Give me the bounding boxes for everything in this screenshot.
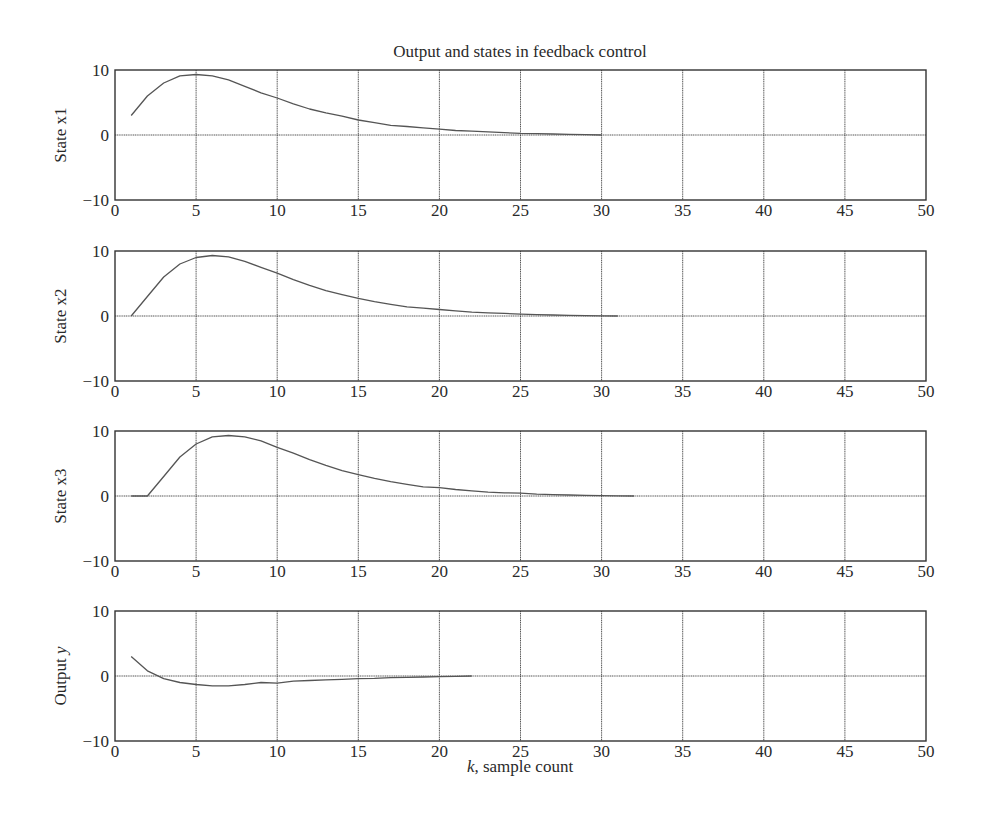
x-tick-label: 0	[111, 562, 120, 581]
series-line-x2	[131, 256, 618, 317]
x-tick-label: 10	[269, 742, 286, 761]
x-tick-label: 20	[431, 742, 448, 761]
x-tick-label: 40	[755, 201, 772, 220]
x-tick-label: 45	[836, 382, 853, 401]
x-tick-label: 5	[192, 201, 201, 220]
chart-title: Output and states in feedback control	[393, 42, 647, 61]
subplot-1: 05101520253035404550−10010State x1	[51, 61, 935, 220]
x-tick-label: 10	[269, 201, 286, 220]
series-line-x1	[131, 75, 601, 136]
y-tick-label: 10	[92, 242, 109, 261]
x-tick-label: 45	[836, 742, 853, 761]
series-line-x3	[131, 436, 634, 497]
x-tick-label: 40	[755, 382, 772, 401]
x-tick-label: 0	[111, 201, 120, 220]
x-tick-label: 35	[674, 382, 691, 401]
x-tick-label: 50	[918, 382, 935, 401]
x-tick-label: 15	[350, 562, 367, 581]
y-axis-label: State x3	[51, 468, 70, 523]
x-tick-label: 30	[593, 742, 610, 761]
x-tick-label: 15	[350, 201, 367, 220]
subplot-3: 05101520253035404550−10010State x3	[51, 422, 935, 581]
x-tick-label: 20	[431, 382, 448, 401]
x-tick-label: 15	[350, 382, 367, 401]
subplot-2: 05101520253035404550−10010State x2	[51, 242, 935, 401]
chart-canvas: Output and states in feedback control 05…	[0, 0, 988, 838]
x-tick-label: 40	[755, 562, 772, 581]
y-axis-label: Output y	[51, 646, 70, 705]
y-tick-label: 10	[92, 602, 109, 621]
y-tick-label: 0	[101, 667, 110, 686]
x-tick-label: 15	[350, 742, 367, 761]
x-tick-label: 30	[593, 201, 610, 220]
y-tick-label: −10	[82, 372, 109, 391]
x-tick-label: 35	[674, 562, 691, 581]
x-tick-label: 45	[836, 201, 853, 220]
y-tick-label: 0	[101, 487, 110, 506]
y-tick-label: 10	[92, 61, 109, 80]
x-tick-label: 20	[431, 562, 448, 581]
x-tick-label: 10	[269, 382, 286, 401]
x-tick-label: 25	[512, 201, 529, 220]
y-tick-label: −10	[82, 552, 109, 571]
x-tick-label: 30	[593, 382, 610, 401]
x-tick-label: 5	[192, 382, 201, 401]
x-tick-label: 5	[192, 562, 201, 581]
x-tick-label: 25	[512, 562, 529, 581]
y-tick-label: −10	[82, 191, 109, 210]
x-tick-label: 35	[674, 201, 691, 220]
x-tick-label: 45	[836, 562, 853, 581]
y-tick-label: −10	[82, 732, 109, 751]
y-axis-label: State x2	[51, 288, 70, 343]
x-tick-label: 50	[918, 201, 935, 220]
x-tick-label: 0	[111, 382, 120, 401]
x-tick-label: 40	[755, 742, 772, 761]
x-tick-label: 0	[111, 742, 120, 761]
subplot-4: 05101520253035404550−10010Output y	[51, 602, 935, 761]
x-tick-label: 50	[918, 562, 935, 581]
y-tick-label: 0	[101, 307, 110, 326]
x-tick-label: 25	[512, 382, 529, 401]
series-line-y	[131, 657, 472, 686]
y-tick-label: 10	[92, 422, 109, 441]
x-tick-label: 35	[674, 742, 691, 761]
y-tick-label: 0	[101, 126, 110, 145]
x-tick-label: 10	[269, 562, 286, 581]
y-axis-label: State x1	[51, 107, 70, 162]
figure: Output and states in feedback control 05…	[0, 0, 988, 838]
x-tick-label: 30	[593, 562, 610, 581]
subplots-group: 05101520253035404550−10010State x1051015…	[51, 61, 935, 761]
x-tick-label: 50	[918, 742, 935, 761]
x-tick-label: 5	[192, 742, 201, 761]
x-tick-label: 20	[431, 201, 448, 220]
x-axis-label: k, sample count	[467, 757, 573, 776]
x-axis-label-text: , sample count	[474, 757, 573, 776]
